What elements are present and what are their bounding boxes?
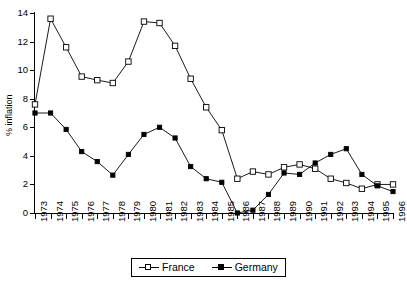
- data-point: [329, 152, 333, 156]
- filled-square-icon: [212, 263, 232, 272]
- x-tick-mark: [346, 214, 347, 219]
- x-tick-mark: [300, 214, 301, 219]
- x-tick-label: 1992: [335, 201, 345, 222]
- y-tick-mark: [30, 156, 35, 157]
- data-point: [48, 16, 53, 21]
- x-tick-label: 1991: [319, 201, 329, 222]
- data-point: [172, 43, 177, 48]
- data-point: [297, 162, 302, 167]
- data-point: [282, 171, 286, 175]
- x-tick-mark: [113, 214, 114, 219]
- x-tick-label: 1995: [381, 201, 391, 222]
- data-point: [235, 176, 240, 181]
- data-point: [220, 180, 224, 184]
- x-tick-label: 1979: [132, 201, 142, 222]
- x-tick-label: 1996: [397, 201, 407, 222]
- x-tick-mark: [393, 214, 394, 219]
- data-point: [328, 176, 333, 181]
- data-point: [126, 59, 131, 64]
- x-tick-mark: [191, 214, 192, 219]
- y-tick-label: 8: [0, 94, 28, 104]
- x-tick-label: 1985: [226, 201, 236, 222]
- data-point: [95, 159, 99, 163]
- data-point: [281, 165, 286, 170]
- x-tick-mark: [66, 214, 67, 219]
- x-tick-mark: [35, 214, 36, 219]
- data-point: [142, 132, 146, 136]
- data-point: [64, 127, 68, 131]
- data-point: [375, 182, 380, 187]
- data-point: [111, 173, 115, 177]
- x-tick-mark: [331, 214, 332, 219]
- data-point: [126, 152, 130, 156]
- data-point: [360, 172, 364, 176]
- data-point: [312, 166, 317, 171]
- data-point: [250, 169, 255, 174]
- open-square-icon: [139, 263, 159, 272]
- data-point: [344, 180, 349, 185]
- y-tick-label: 10: [0, 65, 28, 75]
- legend-label: France: [162, 261, 195, 273]
- x-tick-label: 1982: [179, 201, 189, 222]
- data-point: [219, 127, 224, 132]
- data-point: [110, 80, 115, 85]
- y-tick-label: 0: [0, 208, 28, 218]
- y-tick-label: 14: [0, 8, 28, 18]
- data-point: [204, 105, 209, 110]
- y-tick-mark: [30, 184, 35, 185]
- x-tick-label: 1984: [210, 201, 220, 222]
- data-point: [251, 208, 255, 212]
- x-tick-mark: [160, 214, 161, 219]
- x-tick-label: 1988: [272, 201, 282, 222]
- x-tick-label: 1994: [366, 201, 376, 222]
- data-point: [79, 74, 84, 79]
- legend-item-france: France: [139, 261, 195, 273]
- data-point: [141, 19, 146, 24]
- x-tick-label: 1990: [304, 201, 314, 222]
- series-line: [35, 19, 393, 189]
- data-point: [375, 184, 379, 188]
- x-tick-mark: [362, 214, 363, 219]
- data-point: [204, 177, 208, 181]
- x-tick-label: 1978: [117, 201, 127, 222]
- x-tick-label: 1987: [257, 201, 267, 222]
- data-point: [80, 149, 84, 153]
- y-tick-mark: [30, 127, 35, 128]
- x-tick-mark: [237, 214, 238, 219]
- series-france: [32, 16, 395, 191]
- x-tick-mark: [82, 214, 83, 219]
- y-tick-label: 4: [0, 151, 28, 161]
- x-tick-mark: [128, 214, 129, 219]
- x-tick-mark: [175, 214, 176, 219]
- data-point: [189, 164, 193, 168]
- y-tick-mark: [30, 70, 35, 71]
- data-point: [157, 20, 162, 25]
- chart-legend: FranceGermany: [131, 258, 286, 277]
- series-line: [35, 113, 393, 213]
- data-point: [95, 77, 100, 82]
- legend-item-germany: Germany: [212, 261, 278, 273]
- x-tick-mark: [377, 214, 378, 219]
- x-tick-label: 1973: [39, 201, 49, 222]
- x-tick-mark: [268, 214, 269, 219]
- x-tick-label: 1989: [288, 201, 298, 222]
- x-tick-label: 1980: [148, 201, 158, 222]
- data-point: [157, 125, 161, 129]
- data-point: [391, 189, 395, 193]
- x-tick-mark: [206, 214, 207, 219]
- x-tick-mark: [253, 214, 254, 219]
- y-tick-mark: [30, 99, 35, 100]
- data-point: [359, 186, 364, 191]
- x-tick-mark: [51, 214, 52, 219]
- data-point: [266, 192, 270, 196]
- x-tick-mark: [222, 214, 223, 219]
- x-tick-label: 1993: [350, 201, 360, 222]
- data-point: [344, 147, 348, 151]
- y-tick-label: 2: [0, 179, 28, 189]
- x-tick-mark: [144, 214, 145, 219]
- data-point: [173, 136, 177, 140]
- x-tick-label: 1986: [241, 201, 251, 222]
- x-tick-label: 1977: [101, 201, 111, 222]
